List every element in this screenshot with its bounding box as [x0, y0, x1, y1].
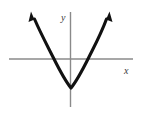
x-axis-label: x — [124, 66, 128, 76]
y-axis-label: y — [61, 13, 65, 23]
graph-canvas — [0, 0, 144, 113]
parabola-figure: y x — [0, 0, 144, 113]
